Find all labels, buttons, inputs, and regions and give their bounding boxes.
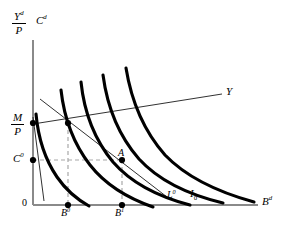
indifference-curve-5 [126,68,254,202]
m-over-p-denominator: P [11,126,24,137]
y-axis-label-fraction: Yd P [12,11,26,36]
label-point-a: A [118,148,124,158]
x-axis-label: Bd [262,196,272,207]
dot-tangency-upper [65,120,71,126]
label-indifference-curve: I0 [190,188,197,199]
y-axis-second-label: Cd [36,15,47,26]
label-budget-line: L0 [167,190,176,200]
dot-m-over-p [30,120,36,126]
diagram-svg [0,0,289,233]
y-axis-numerator: Yd [12,11,26,22]
m-over-p-numerator: M [11,112,24,123]
dot-c0 [30,157,36,163]
figure-canvas: Yd P Cd M P C0 0 B0 B1 A Y L0 I0 Bd [0,0,289,233]
label-m-over-p: M P [11,112,24,137]
label-origin: 0 [22,198,27,208]
label-b-one: B1 [115,208,124,218]
label-b-zero: B0 [61,208,70,218]
label-income-ray: Y [226,86,232,97]
y-axis-denominator: P [12,25,26,36]
label-c-zero: C0 [13,153,24,164]
